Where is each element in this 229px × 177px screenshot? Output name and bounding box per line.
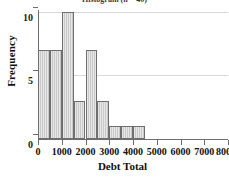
y-tick-label-5: 5 <box>28 75 33 86</box>
x-tick-4000 <box>133 140 134 145</box>
bar-3000-3500 <box>109 126 121 139</box>
x-tick-label-6000: 6000 <box>171 146 191 157</box>
bar-1000-1500 <box>62 12 74 139</box>
x-tick-3000 <box>109 140 110 145</box>
x-tick-label-3000: 3000 <box>99 146 119 157</box>
bar-2500-3000 <box>97 101 109 139</box>
x-tick-label-0: 0 <box>36 146 41 157</box>
x-tick-2000 <box>86 140 87 145</box>
bar-0-500 <box>38 50 50 139</box>
y-axis-title: Frequency <box>5 21 17 101</box>
bar-series <box>38 10 228 139</box>
x-tick-label-2000: 2000 <box>76 146 96 157</box>
y-tick-label-10: 10 <box>23 12 33 23</box>
bar-500-1000 <box>50 50 62 139</box>
x-tick-7000 <box>204 140 205 145</box>
x-tick-0 <box>38 140 39 145</box>
x-tick-label-5000: 5000 <box>147 146 167 157</box>
bar-1500-2000 <box>74 101 86 139</box>
bar-2000-2500 <box>86 50 98 139</box>
x-tick-8000 <box>228 140 229 145</box>
y-tick-10 <box>33 7 38 8</box>
x-tick-label-8000: 8000 <box>216 146 229 157</box>
x-tick-label-7000: 7000 <box>194 146 214 157</box>
bar-4000-4500 <box>133 126 145 139</box>
chart-title-clipped: Histogram (n = 40) <box>0 0 229 7</box>
x-axis-title: Debt Total <box>0 160 229 172</box>
bar-3500-4000 <box>121 126 133 139</box>
x-tick-label-4000: 4000 <box>123 146 143 157</box>
x-tick-1000 <box>62 140 63 145</box>
x-tick-6000 <box>181 140 182 145</box>
chart-title: Histogram (n = 40) <box>82 0 147 4</box>
histogram-chart: Histogram (n = 40) 0 5 10 Frequency 0 10… <box>0 0 229 177</box>
x-tick-5000 <box>157 140 158 145</box>
x-tick-label-1000: 1000 <box>52 146 72 157</box>
y-tick-label-0: 0 <box>28 139 33 150</box>
